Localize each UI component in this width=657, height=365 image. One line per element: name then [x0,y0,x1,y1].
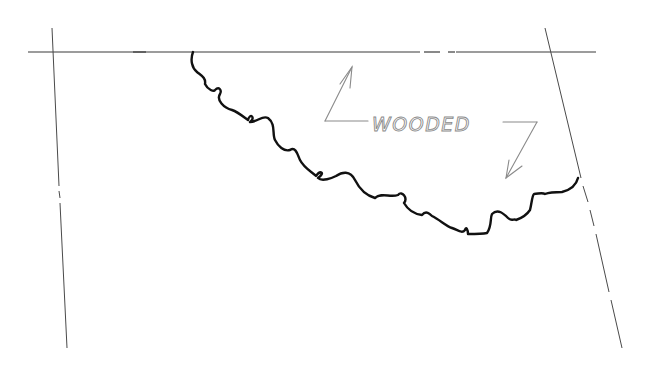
arrow-down-shaft [506,122,537,178]
arrow-up-head-icon [340,67,352,88]
tree-line [192,52,578,234]
wooded-label: WOODED [372,113,471,135]
right-property-line [545,28,622,348]
site-plan-drawing: WOODED [0,0,657,365]
arrow-up-shaft [325,67,352,121]
left-property-line [52,28,67,348]
